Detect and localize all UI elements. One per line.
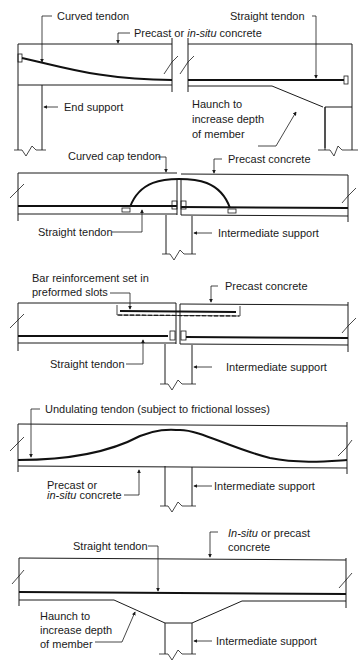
haunch-label-3: of member xyxy=(40,638,93,650)
haunch-label-2: increase depth xyxy=(40,624,112,636)
curved-tendon-label: Curved tendon xyxy=(57,10,129,22)
end-support-label: End support xyxy=(64,101,123,113)
concrete-label-2: concrete xyxy=(228,541,270,553)
panel-curved-cap: Curved cap tendon Precast concrete Strai… xyxy=(10,150,356,260)
bar-reinforcement-label-2: preformed slots xyxy=(32,286,108,298)
straight-tendon-label: Straight tendon xyxy=(230,10,305,22)
precast-concrete-label: Precast concrete xyxy=(225,280,308,292)
panel-end-span: Curved tendon Straight tendon Precast or… xyxy=(14,10,358,156)
haunch-label-2: increase depth xyxy=(192,113,264,125)
intermediate-support-label: Intermediate support xyxy=(218,227,319,239)
straight-tendon-label: Straight tendon xyxy=(50,358,125,370)
prestressed-tendon-diagram: Curved tendon Straight tendon Precast or… xyxy=(0,0,363,662)
intermediate-support-label: Intermediate support xyxy=(214,480,315,492)
curved-cap-tendon-label: Curved cap tendon xyxy=(68,150,161,162)
panel-undulating: Undulating tendon (subject to frictional… xyxy=(10,403,352,512)
straight-tendon-label: Straight tendon xyxy=(73,540,148,552)
concrete-label-1: In-situ or precast xyxy=(228,527,310,539)
intermediate-support-label: Intermediate support xyxy=(226,361,327,373)
panel-bar-reinforcement: Bar reinforcement set in preformed slots… xyxy=(10,272,356,390)
haunch-label-3: of member xyxy=(192,128,245,140)
intermediate-support-label: Intermediate support xyxy=(216,635,317,647)
concrete-label-2: in-situ concrete xyxy=(47,489,122,501)
panel-haunched: Straight tendon In-situ or precast concr… xyxy=(12,527,352,660)
haunch-label-1: Haunch to xyxy=(192,98,242,110)
precast-concrete-label: Precast concrete xyxy=(228,153,311,165)
straight-tendon-label: Straight tendon xyxy=(38,226,113,238)
undulating-tendon-label: Undulating tendon (subject to frictional… xyxy=(45,403,270,415)
bar-reinforcement-label-1: Bar reinforcement set in xyxy=(32,272,149,284)
concrete-label: Precast or in-situ concrete xyxy=(134,27,262,39)
haunch-label-1: Haunch to xyxy=(40,610,90,622)
